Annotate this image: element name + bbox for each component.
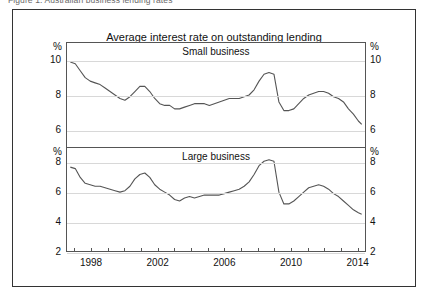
x-tick-label: 2002 <box>147 257 169 268</box>
x-tick-mark <box>291 248 292 252</box>
x-tick-label: 2006 <box>213 257 235 268</box>
x-tick-mark <box>108 248 109 252</box>
y-tick-label-left: 8 <box>36 90 61 100</box>
x-tick-mark <box>274 248 275 252</box>
x-tick-mark <box>208 248 209 252</box>
y-tick-label-right: 8 <box>370 157 376 167</box>
x-tick-mark <box>191 248 192 252</box>
x-tick-mark <box>258 248 259 252</box>
y-tick-label-left: 4 <box>36 217 61 227</box>
gridline <box>67 131 365 132</box>
x-tick-mark <box>124 248 125 252</box>
series-line <box>70 62 361 124</box>
x-tick-mark <box>324 248 325 252</box>
y-tick-label-left: 8 <box>36 157 61 167</box>
x-tick-label: 2014 <box>347 257 369 268</box>
x-tick-mark <box>158 248 159 252</box>
axis-unit-left: % <box>53 41 62 52</box>
gridline <box>67 96 365 97</box>
x-tick-label: 1998 <box>80 257 102 268</box>
panel-small-business: Small business <box>66 42 366 147</box>
x-tick-mark <box>224 248 225 252</box>
axis-unit-right: % <box>370 41 379 52</box>
x-tick-mark <box>308 248 309 252</box>
y-tick-label-left: 6 <box>36 187 61 197</box>
y-tick-label-right: 4 <box>370 217 376 227</box>
y-tick-label-right: 10 <box>370 55 381 65</box>
x-tick-mark <box>358 248 359 252</box>
y-tick-label-left: 6 <box>36 125 61 135</box>
panel-small-business-label: Small business <box>67 46 365 57</box>
x-tick-mark <box>74 248 75 252</box>
panel-large-business: Large business <box>66 147 366 252</box>
panel-large-business-label: Large business <box>67 151 365 162</box>
y-tick-label-right: 2 <box>370 247 376 257</box>
y-tick-label-right: 8 <box>370 90 376 100</box>
x-tick-mark <box>341 248 342 252</box>
series-line <box>70 160 361 214</box>
x-tick-mark <box>241 248 242 252</box>
x-tick-mark <box>141 248 142 252</box>
gridline <box>67 193 365 194</box>
gridline <box>67 223 365 224</box>
y-tick-label-left: 10 <box>36 55 61 65</box>
x-tick-mark <box>91 248 92 252</box>
gridline <box>67 61 365 62</box>
gridline <box>67 163 365 164</box>
gridline <box>67 253 365 254</box>
x-tick-label: 2010 <box>280 257 302 268</box>
x-tick-mark <box>174 248 175 252</box>
figure-page: Figure 1: Australian business lending ra… <box>0 0 430 298</box>
y-tick-label-left: 2 <box>36 247 61 257</box>
y-tick-label-right: 6 <box>370 187 376 197</box>
figure-caption: Figure 1: Australian business lending ra… <box>8 0 172 5</box>
y-tick-label-right: 6 <box>370 125 376 135</box>
